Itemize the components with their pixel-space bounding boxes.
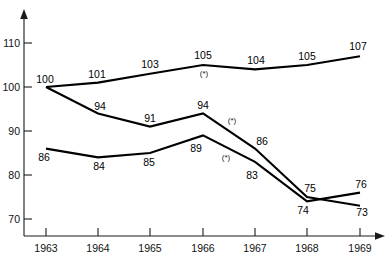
- data-label-lower-1968: 74: [297, 204, 309, 216]
- y-tick-label-110: 110: [3, 37, 20, 49]
- x-ticks-group: 1963 1964 1965 1966 1967 1968 1969: [34, 228, 372, 254]
- x-tick-label-1969: 1969: [348, 242, 372, 254]
- footnote-marker-lower: (*): [222, 153, 231, 162]
- data-label-upper-1969: 107: [349, 40, 367, 52]
- data-label-lower-1965: 85: [143, 156, 155, 168]
- data-label-lower-1967: 83: [246, 169, 258, 181]
- x-tick-label-1968: 1968: [295, 242, 319, 254]
- footnote-marker-upper: (*): [200, 69, 209, 78]
- x-tick-label-1967: 1967: [243, 242, 267, 254]
- y-ticks-group: 70 80 90 100 110: [2, 37, 32, 225]
- data-label-middle-1967: 86: [256, 135, 268, 147]
- axes-group: [20, 9, 385, 240]
- data-label-middle-1965: 91: [144, 112, 156, 124]
- x-tick-label-1966: 1966: [191, 242, 215, 254]
- data-label-lower-1964: 84: [93, 160, 105, 172]
- y-tick-label-90: 90: [8, 125, 20, 137]
- data-labels-lower: 86 84 85 89 83 74 76 (*): [38, 142, 367, 216]
- data-label-middle-1966: 94: [197, 99, 209, 111]
- data-label-lower-1966: 89: [190, 142, 202, 154]
- data-label-upper-1965: 103: [141, 58, 159, 70]
- x-tick-label-1964: 1964: [86, 242, 110, 254]
- y-tick-label-100: 100: [2, 81, 20, 93]
- data-label-upper-1967: 104: [247, 54, 265, 66]
- data-label-upper-1964: 101: [88, 68, 106, 80]
- x-tick-label-1965: 1965: [138, 242, 162, 254]
- x-axis-arrowhead: [375, 232, 385, 240]
- y-tick-label-80: 80: [8, 169, 20, 181]
- chart-canvas: 70 80 90 100 110 1963 1964 1965 1966 196…: [0, 0, 390, 258]
- data-label-lower-1969: 76: [355, 178, 367, 190]
- data-label-upper-1966: 105: [194, 49, 212, 61]
- data-label-middle-1964: 94: [94, 100, 106, 112]
- y-axis-arrowhead: [20, 9, 28, 19]
- data-label-middle-1969: 73: [356, 206, 368, 218]
- data-label-lower-1963: 86: [38, 151, 50, 163]
- data-label-middle-1968: 75: [304, 182, 316, 194]
- data-label-upper-1963: 100: [36, 73, 54, 85]
- data-label-upper-1968: 105: [298, 50, 316, 62]
- line-chart: 70 80 90 100 110 1963 1964 1965 1966 196…: [0, 0, 390, 258]
- x-tick-label-1963: 1963: [34, 242, 58, 254]
- footnote-marker-middle: (*): [228, 116, 237, 125]
- y-tick-label-70: 70: [8, 213, 20, 225]
